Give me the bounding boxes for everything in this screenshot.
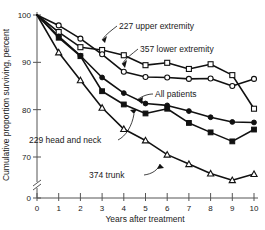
- data-point-s1-x9: [230, 84, 235, 89]
- data-point-s0-x2: [78, 45, 83, 50]
- data-point-s1-x5: [143, 75, 148, 80]
- data-point-s2-x9: [230, 120, 235, 125]
- data-point-s1-x1: [56, 23, 61, 28]
- x-tick-label-3: 3: [100, 204, 105, 213]
- data-point-s0-x4: [121, 53, 126, 58]
- y-tick-label-origin: 0: [27, 194, 32, 203]
- data-point-s1-x7: [186, 76, 191, 81]
- series-label-lower-extremity: 357 lower extremity: [140, 44, 214, 54]
- data-point-s1-x10: [252, 76, 257, 81]
- data-point-s2-x10: [252, 120, 257, 125]
- data-point-s4-x5: [142, 137, 148, 143]
- data-point-s2-x5: [143, 101, 148, 106]
- series-label-trunk: 374 trunk: [89, 170, 125, 180]
- x-tick-label-1: 1: [56, 204, 61, 213]
- arrowhead-head-and-neck: [130, 109, 137, 114]
- data-point-s1-x3: [100, 52, 105, 57]
- data-point-s2-x7: [187, 109, 192, 114]
- data-point-s0-x10: [252, 106, 257, 111]
- data-point-s3-x5: [143, 111, 148, 116]
- x-tick-label-4: 4: [122, 204, 127, 213]
- data-point-s1-x4: [121, 69, 126, 74]
- data-point-s0-x6: [165, 60, 170, 65]
- arrowhead-trunk: [157, 164, 164, 169]
- data-point-s3-x3: [100, 89, 105, 94]
- x-tick-label-0: 0: [35, 204, 40, 213]
- data-point-s3-x1: [56, 35, 61, 40]
- data-point-s1-x6: [165, 75, 170, 80]
- x-tick-label-5: 5: [143, 204, 148, 213]
- y-tick-label-100: 100: [18, 11, 32, 20]
- survival-chart: 7080901000 012345678910 227 upper extrem…: [0, 0, 265, 230]
- annotation-arrowheads: [102, 36, 164, 169]
- leader-line-trunk: [144, 164, 160, 175]
- data-point-s2-x3: [100, 75, 105, 80]
- data-point-s2-x8: [208, 115, 213, 120]
- x-tick-label-2: 2: [78, 204, 83, 213]
- x-axis-title: Years after treatment: [105, 214, 185, 224]
- data-point-s3-x4: [121, 102, 126, 107]
- data-point-s0-x9: [230, 73, 235, 78]
- data-point-s4-x10: [251, 171, 257, 177]
- y-axis-title: Cumulative proportion surviving, percent: [1, 28, 11, 181]
- data-point-s4-x8: [208, 170, 214, 176]
- data-point-s3-x2: [78, 54, 83, 59]
- leader-line-upper-extremity: [102, 26, 117, 40]
- data-point-s1-x2: [78, 36, 83, 41]
- chart-canvas: 7080901000 012345678910 227 upper extrem…: [0, 0, 265, 230]
- y-tick-label-80: 80: [22, 106, 31, 115]
- series-lines-group: [37, 15, 254, 180]
- x-tick-label-9: 9: [230, 204, 235, 213]
- x-tick-label-7: 7: [187, 204, 192, 213]
- y-tick-label-70: 70: [22, 153, 31, 162]
- leader-line-head-and-neck: [118, 114, 134, 140]
- data-point-s3-x8: [208, 130, 213, 135]
- series-label-all-patients: All patients: [155, 89, 197, 99]
- x-tick-label-8: 8: [208, 204, 213, 213]
- series-label-upper-extremity: 227 upper extremity: [119, 21, 195, 31]
- data-point-s4-x7: [186, 161, 192, 167]
- data-point-s0-x8: [208, 62, 213, 67]
- data-point-s0-x5: [143, 63, 148, 68]
- data-point-s0-x7: [186, 66, 191, 71]
- data-point-s1-x8: [208, 76, 213, 81]
- data-point-s3-x7: [187, 121, 192, 126]
- data-point-s3-x10: [252, 127, 257, 132]
- data-point-s4-x9: [229, 177, 235, 183]
- x-tick-label-10: 10: [250, 204, 259, 213]
- y-tick-label-90: 90: [22, 58, 31, 67]
- x-tick-label-6: 6: [165, 204, 170, 213]
- data-point-s2-x4: [121, 91, 126, 96]
- series-label-head-and-neck: 229 head and neck: [29, 135, 102, 145]
- data-point-s3-x9: [230, 139, 235, 144]
- data-point-s3-x6: [165, 106, 170, 111]
- x-axis-ticks: 012345678910: [35, 193, 259, 213]
